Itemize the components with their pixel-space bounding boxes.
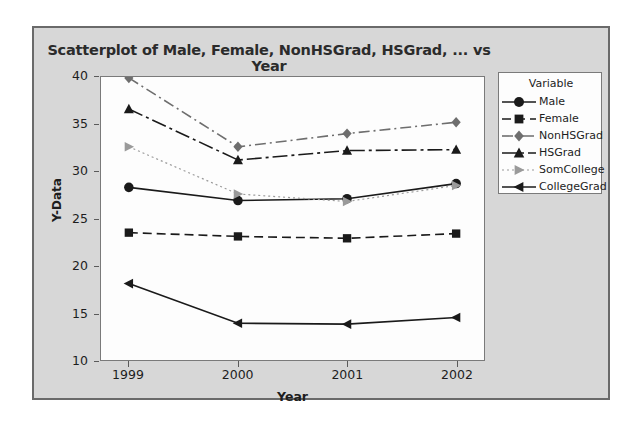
data-point-marker [125,228,133,236]
data-point-marker [515,114,524,123]
legend: Variable MaleFemaleNonHSGradHSGradSomCol… [498,72,602,194]
x-tick-mark [457,361,458,367]
legend-label: Male [539,94,565,110]
legend-swatch-square-icon [499,111,539,127]
x-tick-label: 2000 [213,367,263,382]
data-point-marker [342,128,351,138]
chart-window: Scatterplot of Male, Female, NonHSGrad, … [0,0,639,441]
data-point-marker [125,142,134,152]
chart-title: Scatterplot of Male, Female, NonHSGrad, … [34,42,504,74]
data-point-marker [124,104,134,113]
legend-item-hsgrad[interactable]: HSGrad [499,144,603,161]
series-collegegrad [124,279,461,329]
data-point-marker [515,164,525,174]
x-tick-mark [238,361,239,367]
y-tick-label: 15 [54,306,88,321]
x-tick-label: 2002 [432,367,482,382]
series-male [124,179,461,206]
y-tick-label: 35 [54,116,88,131]
series-nonhsgrad [124,77,460,152]
data-point-marker [124,279,133,289]
data-point-marker [234,232,242,240]
series-female [125,228,461,242]
y-tick-label: 25 [54,211,88,226]
legend-item-collegegrad[interactable]: CollegeGrad [499,178,603,195]
data-point-marker [342,319,351,329]
plot-series-canvas [101,77,484,360]
series-line [129,184,456,201]
series-somcollege [125,142,462,206]
series-hsgrad [124,104,461,164]
legend-label: SomCollege [539,162,604,178]
y-tick-mark [94,361,99,362]
y-tick-label: 40 [54,68,88,83]
data-point-marker [233,318,242,328]
legend-swatch-circle-icon [499,94,539,110]
y-tick-mark [94,314,99,315]
data-point-marker [452,229,460,237]
series-line [129,233,456,239]
legend-item-female[interactable]: Female [499,110,603,127]
y-tick-mark [94,171,99,172]
legend-item-somcollege[interactable]: SomCollege [499,161,603,178]
series-line [129,78,456,147]
data-point-marker [452,117,461,127]
legend-label: HSGrad [539,145,581,161]
data-point-marker [124,183,134,193]
data-point-marker [451,313,460,323]
legend-item-male[interactable]: Male [499,93,603,110]
x-axis-title: Year [100,389,485,404]
y-tick-label: 20 [54,258,88,273]
y-tick-mark [94,219,99,220]
series-line [129,284,456,325]
legend-item-nonhsgrad[interactable]: NonHSGrad [499,127,603,144]
x-tick-mark [347,361,348,367]
data-point-marker [343,234,351,242]
x-tick-mark [128,361,129,367]
graph-panel: Scatterplot of Male, Female, NonHSGrad, … [32,26,610,400]
data-point-marker [514,130,524,141]
x-tick-label: 2001 [322,367,372,382]
series-line [129,109,456,160]
y-tick-label: 10 [54,353,88,368]
data-point-marker [233,142,242,152]
y-tick-mark [94,266,99,267]
y-tick-mark [94,76,99,77]
legend-label: Female [539,111,579,127]
data-point-marker [514,181,524,191]
y-tick-label: 30 [54,163,88,178]
legend-label: CollegeGrad [539,179,607,195]
legend-swatch-triangle-left-icon [499,179,539,195]
legend-label: NonHSGrad [539,128,603,144]
legend-swatch-diamond-icon [499,128,539,144]
x-tick-label: 1999 [103,367,153,382]
data-point-marker [514,97,524,107]
legend-title: Variable [499,77,603,90]
legend-swatch-triangle-up-icon [499,145,539,161]
y-tick-mark [94,124,99,125]
plot-area [100,76,485,361]
legend-swatch-triangle-right-icon [499,162,539,178]
data-point-marker [451,144,461,153]
